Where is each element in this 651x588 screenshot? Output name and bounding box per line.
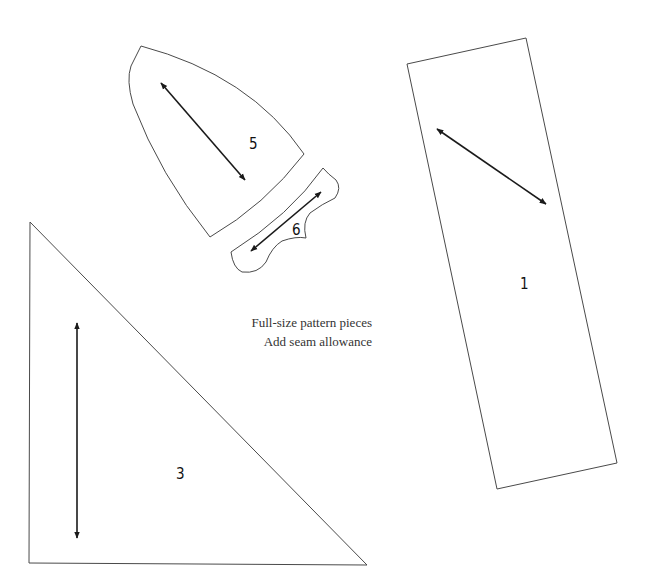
piece-5-label: 5 [249,135,258,153]
piece-3-label: 3 [176,465,185,483]
piece-1-outline [407,38,617,489]
piece-1-label: 1 [520,275,529,293]
caption-line-1: Full-size pattern pieces [251,313,372,332]
pattern-piece-1: 1 [407,38,617,489]
pattern-piece-6: 6 [231,168,339,272]
piece-5-outline [129,46,304,237]
pattern-piece-3: 3 [29,222,367,565]
pattern-sheet: 5 6 1 3 [0,0,651,588]
pattern-piece-5: 5 [129,46,304,237]
grainline-arrow-icon [251,192,321,251]
piece-6-outline [231,168,339,272]
grainline-arrow-icon [437,129,546,204]
piece-6-label: 6 [292,221,301,239]
piece-3-outline [29,222,367,565]
grainline-arrow-icon [161,83,245,180]
caption-line-2: Add seam allowance [264,332,372,351]
